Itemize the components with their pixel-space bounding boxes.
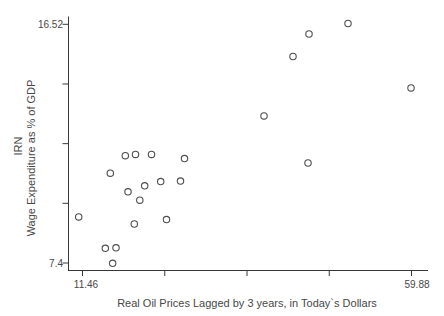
scatter-plot-svg: 16.52 7.4 11.46 59.88 Real Oil Prices La… bbox=[0, 0, 444, 316]
y-tick-label-max: 16.52 bbox=[38, 19, 63, 30]
data-point bbox=[137, 197, 143, 203]
y-axis-ticks bbox=[63, 24, 69, 263]
data-point bbox=[131, 221, 137, 227]
data-point bbox=[125, 189, 131, 195]
x-axis-ticks bbox=[83, 271, 412, 277]
data-point bbox=[122, 153, 128, 159]
data-point bbox=[107, 170, 113, 176]
y-axis-title: Wage Expenditure as % of GDP bbox=[25, 80, 37, 237]
x-axis: 11.46 59.88 bbox=[68, 271, 430, 291]
x-tick-label-max: 59.88 bbox=[404, 279, 429, 290]
data-point bbox=[345, 20, 351, 26]
data-point bbox=[113, 245, 119, 251]
data-point bbox=[158, 178, 164, 184]
scatter-chart-figure: 16.52 7.4 11.46 59.88 Real Oil Prices La… bbox=[0, 0, 444, 316]
data-point bbox=[177, 178, 183, 184]
scatter-points bbox=[76, 20, 415, 266]
x-axis-title: Real Oil Prices Lagged by 3 years, in To… bbox=[117, 297, 377, 309]
y-tick-label-min: 7.4 bbox=[49, 258, 63, 269]
data-point bbox=[110, 260, 116, 266]
data-point bbox=[76, 214, 82, 220]
data-point bbox=[290, 53, 296, 59]
data-point bbox=[181, 155, 187, 161]
data-point bbox=[132, 151, 138, 157]
data-point bbox=[261, 113, 267, 119]
data-point bbox=[163, 216, 169, 222]
data-point bbox=[306, 31, 312, 37]
y-axis-group-label: IRN bbox=[12, 136, 24, 155]
data-point bbox=[408, 85, 414, 91]
data-point bbox=[305, 160, 311, 166]
data-point bbox=[142, 183, 148, 189]
data-point bbox=[148, 151, 154, 157]
data-point bbox=[102, 245, 108, 251]
x-tick-label-min: 11.46 bbox=[74, 279, 99, 290]
y-axis: 16.52 7.4 bbox=[38, 17, 69, 271]
